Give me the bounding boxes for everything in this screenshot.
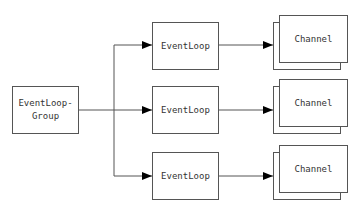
group-label-line2: Group xyxy=(32,110,59,123)
eventloop-box-1: EventLoop xyxy=(152,22,219,70)
eventloop-label: EventLoop xyxy=(161,40,210,53)
eventloop-box-2: EventLoop xyxy=(152,86,219,134)
eventloop-label: EventLoop xyxy=(161,170,210,183)
channel-box-1: Channel xyxy=(279,15,348,63)
eventloop-box-3: EventLoop xyxy=(152,152,219,200)
group-label-line1: EventLoop- xyxy=(18,97,72,110)
eventloop-group-box: EventLoop- Group xyxy=(12,86,79,134)
channel-box-2: Channel xyxy=(279,79,348,127)
eventloop-label: EventLoop xyxy=(161,104,210,117)
channel-label: Channel xyxy=(295,33,333,46)
channel-box-3: Channel xyxy=(279,145,348,193)
channel-label: Channel xyxy=(295,163,333,176)
channel-label: Channel xyxy=(295,97,333,110)
